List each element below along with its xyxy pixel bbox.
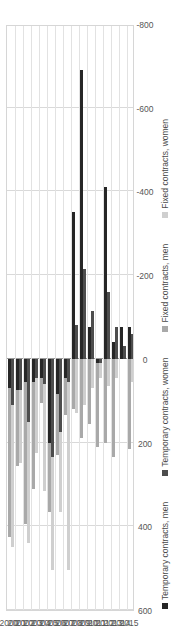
- bar-2002-men: [24, 26, 27, 610]
- bar-2005-men: [48, 26, 51, 610]
- legend-item-fix-men[interactable]: Fixed contracts, men: [160, 244, 170, 332]
- bar-2003-women-fixed: [35, 378, 38, 453]
- bar-2008-women-temporary: [75, 325, 78, 358]
- bar-2010-women-temporary: [91, 311, 94, 359]
- bar-2012-men: [104, 26, 107, 610]
- bar-2008-women: [75, 26, 78, 610]
- value-tick-label: 0: [135, 355, 155, 365]
- bar-2005-women-fixed: [51, 457, 54, 570]
- bar-2012-women-fixed: [107, 359, 110, 386]
- bar-2014-men: [120, 26, 123, 610]
- bar-2008-men-temporary: [72, 212, 75, 359]
- bar-2013-men-temporary: [112, 342, 115, 359]
- bar-2012-women: [107, 26, 110, 610]
- bar-2004-women: [43, 26, 46, 610]
- bar-2000-men-fixed: [8, 388, 11, 537]
- value-tick-label: -800: [135, 20, 155, 30]
- value-tick-label: 200: [135, 439, 155, 449]
- bar-2006-women-fixed: [59, 432, 62, 512]
- bar-2003-men: [32, 26, 35, 610]
- legend-swatch-icon: [162, 470, 168, 476]
- bar-2004-men-fixed: [40, 378, 43, 403]
- bar-2009-men-fixed: [80, 359, 83, 439]
- bar-2006-men-fixed: [56, 394, 59, 455]
- bar-2005-women-temporary: [51, 359, 54, 457]
- bar-2010-men-fixed: [88, 359, 91, 424]
- bar-2010-men-temporary: [88, 327, 91, 358]
- legend-swatch-icon: [162, 603, 168, 609]
- bar-2006-women-temporary: [59, 359, 62, 432]
- value-tick-label: 600: [135, 606, 155, 616]
- bar-2003-men-temporary: [32, 359, 35, 382]
- legend-item-fix-women[interactable]: Fixed contracts, women: [160, 119, 170, 218]
- bar-2009-men-temporary: [80, 70, 83, 359]
- bar-2002-men-temporary: [24, 359, 27, 382]
- bar-2008-men: [72, 26, 75, 610]
- bar-2004-men-temporary: [40, 359, 43, 378]
- bar-2009-women-fixed: [83, 359, 86, 405]
- value-axis: 6004002000-200-400-600-800: [136, 25, 160, 611]
- bar-2000-women: [11, 26, 14, 610]
- bar-2010-men: [88, 26, 91, 610]
- bar-2011-men-fixed: [96, 363, 99, 447]
- bar-2013-men-fixed: [112, 359, 115, 457]
- bar-2014-women-temporary: [123, 346, 126, 359]
- bar-2007-men: [64, 26, 67, 610]
- bar-2006-men: [56, 26, 59, 610]
- plot-area: [6, 25, 134, 611]
- bar-2001-women-temporary: [19, 359, 22, 390]
- bar-2002-men-fixed: [24, 382, 27, 524]
- legend-item-temp-women[interactable]: Temporary contracts, women: [160, 358, 170, 476]
- bar-2011-men: [96, 26, 99, 610]
- value-tick-label: -400: [135, 187, 155, 197]
- bar-2003-women-temporary: [35, 359, 38, 378]
- legend-item-temp-men[interactable]: Temporary contracts, men: [160, 502, 170, 609]
- bar-2007-men-fixed: [64, 378, 67, 416]
- bar-2014-men-temporary: [120, 327, 123, 358]
- bar-2001-men-temporary: [16, 359, 19, 390]
- bar-2006-women: [59, 26, 62, 610]
- bar-2015-men-fixed: [128, 359, 131, 449]
- bar-2001-men-fixed: [16, 390, 19, 465]
- bar-2015-men: [128, 26, 131, 610]
- bar-2012-men-fixed: [104, 359, 107, 443]
- bar-2005-women: [51, 26, 54, 610]
- bar-2010-women: [91, 26, 94, 610]
- bar-2001-women-fixed: [19, 390, 22, 463]
- bar-2013-women-fixed: [115, 359, 118, 378]
- bar-2015-women-fixed: [131, 359, 134, 382]
- legend-label: Temporary contracts, women: [160, 358, 170, 467]
- bar-2007-men-temporary: [64, 359, 67, 378]
- bar-2000-women-fixed: [11, 405, 14, 547]
- bar-2007-women-fixed: [67, 382, 70, 570]
- chart-legend: Temporary contracts, menTemporary contra…: [160, 23, 180, 609]
- bar-2009-women-temporary: [83, 269, 86, 359]
- bar-2012-women-temporary: [107, 292, 110, 359]
- bar-2002-women-temporary: [27, 359, 30, 422]
- bar-2000-men: [8, 26, 11, 610]
- legend-label: Temporary contracts, men: [160, 502, 170, 600]
- legend-label: Fixed contracts, women: [160, 119, 170, 209]
- category-tick-2015: 2015: [119, 618, 139, 628]
- value-tick-label: -200: [135, 271, 155, 281]
- bar-2003-men-fixed: [32, 382, 35, 489]
- bar-2000-men-temporary: [8, 359, 11, 388]
- bar-2007-women-temporary: [67, 359, 70, 382]
- chart-figure: 2000200120022003200420052006200720082009…: [0, 0, 186, 633]
- category-axis: 2000200120022003200420052006200720082009…: [6, 613, 134, 633]
- bar-2009-women: [83, 26, 86, 610]
- bar-2009-men: [80, 26, 83, 610]
- bar-2011-women-fixed: [99, 363, 102, 378]
- bar-2004-men: [40, 26, 43, 610]
- bar-2005-men-fixed: [48, 443, 51, 512]
- bar-2008-women-fixed: [75, 359, 78, 413]
- bar-2003-women: [35, 26, 38, 610]
- bar-2013-women: [115, 26, 118, 610]
- bar-2013-men: [112, 26, 115, 610]
- bar-2015-men-temporary: [128, 327, 131, 358]
- bar-2015-women-temporary: [131, 334, 134, 359]
- bar-2013-women-temporary: [115, 327, 118, 358]
- bar-2012-men-temporary: [104, 187, 107, 359]
- bar-2001-women: [19, 26, 22, 610]
- value-tick-label: -600: [135, 104, 155, 114]
